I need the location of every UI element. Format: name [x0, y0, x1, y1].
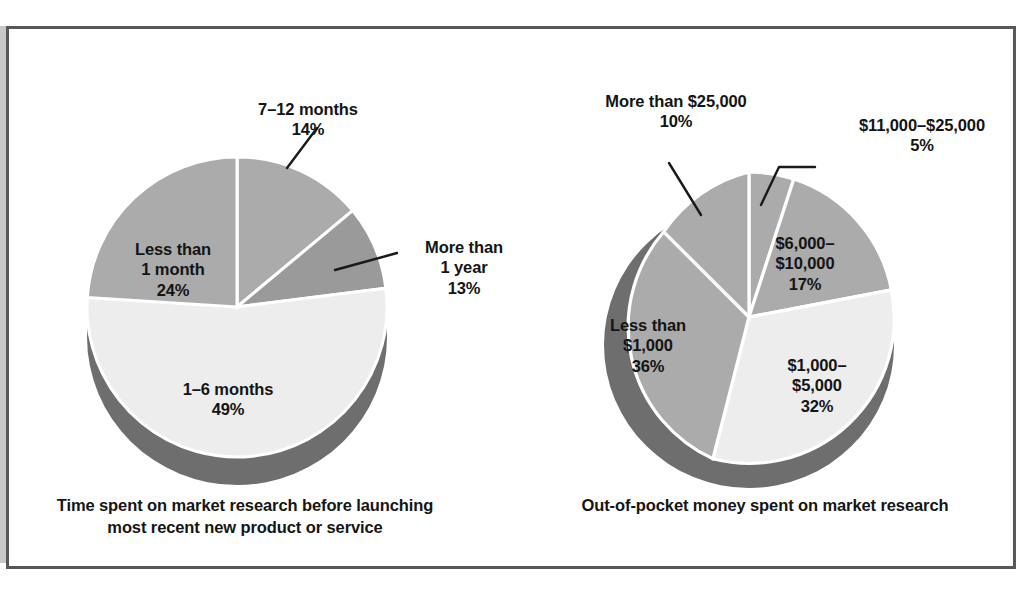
pie-label-1000-5000: $1,000– $5,000 32% [747, 355, 887, 416]
pie-chart-time-spent: 7–12 months 14% Less than 1 month 24% 1–… [35, 55, 505, 594]
pie-caption-money-spent: Out-of-pocket money spent on market rese… [565, 495, 965, 517]
pie-label-more-than-1-year: More than 1 year 13% [399, 237, 529, 298]
pie-label-1-6-months: 1–6 months 49% [133, 379, 323, 420]
pie-label-11000-25000: $11,000–$25,000 5% [807, 115, 1031, 156]
pie-caption-time-spent: Time spent on market research before lau… [45, 495, 445, 539]
pie-label-more-than-25000: More than $25,000 10% [551, 91, 801, 132]
pie-label-6000-10000: $6,000– $10,000 17% [735, 233, 875, 294]
figure-root: 7–12 months 14% Less than 1 month 24% 1–… [0, 0, 1031, 594]
pie-label-less-than-1000: Less than $1,000 36% [573, 315, 723, 376]
pie-label-7-12-months: 7–12 months 14% [213, 99, 403, 140]
pie-chart-money-spent: More than $25,000 10% $11,000–$25,000 5%… [515, 55, 1015, 594]
charts-container: 7–12 months 14% Less than 1 month 24% 1–… [15, 55, 1025, 594]
figure-frame: 7–12 months 14% Less than 1 month 24% 1–… [6, 26, 1016, 569]
pie-label-less-than-1-month: Less than 1 month 24% [93, 239, 253, 300]
